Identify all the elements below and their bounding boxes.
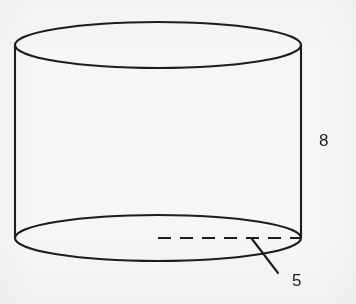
cylinder-figure: 8 5 [0, 0, 356, 304]
height-label: 8 [319, 132, 328, 149]
radius-label: 5 [292, 272, 301, 289]
top-base-ellipse [15, 22, 301, 68]
cylinder-drawing [0, 0, 356, 304]
radius-leader-line [252, 239, 278, 273]
